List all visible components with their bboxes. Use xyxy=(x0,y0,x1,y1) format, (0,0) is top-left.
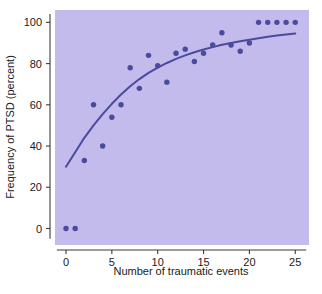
data-point xyxy=(127,65,132,70)
data-point xyxy=(109,114,114,119)
data-point xyxy=(238,49,243,54)
data-point xyxy=(283,20,288,25)
data-point xyxy=(173,51,178,56)
y-tick-label: 100 xyxy=(24,16,42,28)
y-axis-title: Frequency of PTSD (percent) xyxy=(4,55,16,199)
data-point xyxy=(293,20,298,25)
chart-figure: 0510152025 020406080100 Number of trauma… xyxy=(0,0,322,294)
y-axis-ticks: 020406080100 xyxy=(24,16,50,234)
data-point xyxy=(274,20,279,25)
data-point xyxy=(247,40,252,45)
data-point xyxy=(137,86,142,91)
x-tick-label: 25 xyxy=(289,256,301,268)
data-point xyxy=(192,59,197,64)
data-point xyxy=(164,79,169,84)
ptsd-frequency-scatter-chart: 0510152025 020406080100 Number of trauma… xyxy=(0,0,322,294)
x-axis-title: Number of traumatic events xyxy=(113,265,249,277)
data-point xyxy=(228,42,233,47)
y-tick-label: 60 xyxy=(30,99,42,111)
data-point xyxy=(256,20,261,25)
data-point xyxy=(155,63,160,68)
data-point xyxy=(146,53,151,58)
y-tick-label: 80 xyxy=(30,58,42,70)
data-point xyxy=(183,46,188,51)
data-point xyxy=(219,30,224,35)
data-point xyxy=(82,158,87,163)
data-point xyxy=(265,20,270,25)
x-tick-label: 0 xyxy=(63,256,69,268)
data-point xyxy=(91,102,96,107)
y-tick-label: 20 xyxy=(30,181,42,193)
data-point xyxy=(118,102,123,107)
data-point xyxy=(63,226,68,231)
data-point xyxy=(100,143,105,148)
y-tick-label: 0 xyxy=(36,223,42,235)
data-point xyxy=(201,51,206,56)
data-point xyxy=(210,42,215,47)
y-tick-label: 40 xyxy=(30,140,42,152)
data-point xyxy=(72,226,77,231)
